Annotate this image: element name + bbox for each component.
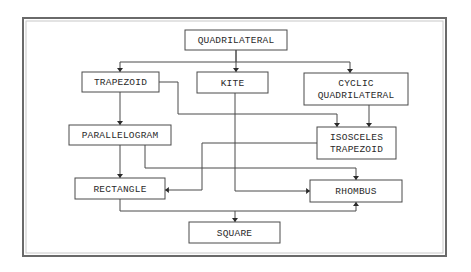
node-cyclic-quadrilateral: CYCLICQUADRILATERAL [304,73,408,105]
connector-line [236,62,350,73]
node-label: KITE [221,78,245,89]
edge-quadrilateral-to-trapezoid [117,50,236,72]
arrowhead-icon [117,174,123,178]
node-label: PARALLELOGRAM [82,130,159,141]
node-label: QUADRILATERAL [318,90,395,101]
arrowhead-icon [347,69,353,73]
edge-trapezoid-to-parallelogram [117,92,123,125]
node-label: ISOSCELES [330,132,383,143]
edge-quadrilateral-to-cyclic-quadrilateral [236,62,353,73]
node-label: RECTANGLE [93,184,146,195]
edge-cyclic-quadrilateral-to-isosceles-trapezoid [366,105,372,127]
node-label: TRAPEZOID [330,144,383,155]
quadrilateral-hierarchy-diagram: QUADRILATERALTRAPEZOIDKITECYCLICQUADRILA… [0,0,471,272]
arrowhead-icon [117,68,123,72]
connector-line [235,93,310,191]
edge-quadrilateral-to-kite [233,50,239,72]
arrowhead-icon [232,218,238,222]
node-parallelogram: PARALLELOGRAM [69,125,171,145]
arrowhead-icon [366,123,372,127]
node-rhombus: RHOMBUS [310,180,402,202]
node-label: TRAPEZOID [94,77,147,88]
node-rectangle: RECTANGLE [75,178,165,199]
arrowhead-icon [306,188,310,194]
edge-rectangle-to-square [232,211,238,222]
arrowhead-icon [117,121,123,125]
node-label: QUADRILATERAL [198,35,275,46]
node-trapezoid: TRAPEZOID [82,72,159,92]
node-kite: KITE [197,72,268,93]
connector-line [165,143,317,190]
node-square: SQUARE [189,222,280,243]
node-label: CYCLIC [338,78,374,89]
connector-line [120,50,236,72]
node-label: SQUARE [217,228,253,239]
node-label: RHOMBUS [335,186,376,197]
edge-parallelogram-to-rectangle [117,145,123,178]
node-isosceles-trapezoid: ISOSCELESTRAPEZOID [317,127,396,159]
arrowhead-icon [353,176,359,180]
arrowhead-icon [233,68,239,72]
node-quadrilateral: QUADRILATERAL [185,30,287,50]
arrowhead-icon [165,187,169,193]
arrowhead-icon [353,202,359,206]
arrowhead-icon [334,123,340,127]
